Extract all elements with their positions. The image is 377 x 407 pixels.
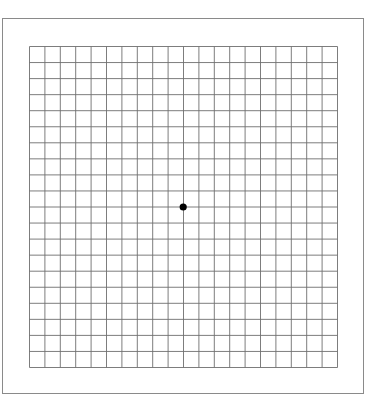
amsler-grid bbox=[0, 0, 377, 407]
center-fixation-dot bbox=[180, 203, 187, 210]
